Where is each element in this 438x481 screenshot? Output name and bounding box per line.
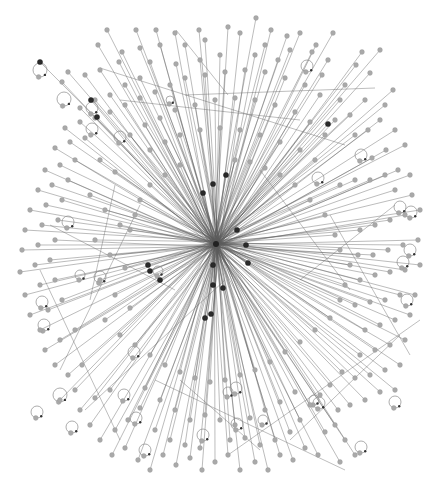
graph-node[interactable]: [178, 163, 183, 168]
graph-node[interactable]: [183, 76, 188, 81]
graph-node[interactable]: [238, 31, 243, 36]
graph-node[interactable]: [110, 453, 115, 458]
graph-node[interactable]: [46, 308, 51, 313]
graph-node[interactable]: [298, 148, 303, 153]
graph-node[interactable]: [143, 386, 148, 391]
graph-node[interactable]: [167, 102, 172, 107]
graph-node[interactable]: [56, 218, 61, 223]
graph-node[interactable]: [358, 353, 363, 358]
graph-node[interactable]: [263, 43, 268, 48]
graph-node[interactable]: [218, 53, 223, 58]
graph-node[interactable]: [233, 423, 238, 428]
graph-node-highlighted[interactable]: [37, 59, 42, 64]
graph-node[interactable]: [148, 60, 153, 65]
graph-node[interactable]: [293, 183, 298, 188]
graph-node[interactable]: [18, 270, 23, 275]
graph-node[interactable]: [378, 118, 383, 123]
graph-node[interactable]: [116, 141, 121, 146]
graph-node[interactable]: [123, 83, 128, 88]
graph-node[interactable]: [78, 408, 83, 413]
graph-node[interactable]: [33, 263, 38, 268]
graph-node-highlighted[interactable]: [145, 262, 150, 267]
graph-node[interactable]: [288, 48, 293, 53]
graph-node[interactable]: [363, 98, 368, 103]
graph-node-highlighted[interactable]: [147, 268, 152, 273]
graph-node[interactable]: [353, 303, 358, 308]
graph-node[interactable]: [408, 313, 413, 318]
graph-node[interactable]: [416, 238, 421, 243]
graph-node[interactable]: [128, 228, 133, 233]
graph-node[interactable]: [199, 439, 204, 444]
graph-node[interactable]: [353, 376, 358, 381]
graph-node-highlighted[interactable]: [223, 172, 228, 177]
graph-node[interactable]: [53, 363, 58, 368]
graph-node[interactable]: [333, 423, 338, 428]
graph-node[interactable]: [253, 98, 258, 103]
graph-node[interactable]: [226, 25, 231, 30]
graph-node-highlighted[interactable]: [157, 277, 162, 282]
graph-node[interactable]: [343, 438, 348, 443]
graph-node[interactable]: [348, 263, 353, 268]
graph-node[interactable]: [138, 76, 143, 81]
graph-node[interactable]: [393, 128, 398, 133]
graph-node[interactable]: [78, 120, 83, 125]
graph-node[interactable]: [393, 388, 398, 393]
graph-node[interactable]: [58, 398, 63, 403]
graph-node[interactable]: [40, 223, 45, 228]
graph-node[interactable]: [353, 133, 358, 138]
graph-node[interactable]: [58, 338, 63, 343]
graph-node[interactable]: [117, 60, 122, 65]
graph-node[interactable]: [20, 248, 25, 253]
graph-node[interactable]: [148, 353, 153, 358]
graph-node[interactable]: [141, 454, 146, 459]
graph-node[interactable]: [353, 453, 358, 458]
graph-node[interactable]: [233, 158, 238, 163]
graph-node[interactable]: [328, 383, 333, 388]
graph-node-highlighted[interactable]: [94, 114, 99, 119]
graph-node[interactable]: [98, 278, 103, 283]
graph-node[interactable]: [98, 438, 103, 443]
graph-node[interactable]: [323, 430, 328, 435]
graph-node[interactable]: [88, 193, 93, 198]
graph-node[interactable]: [338, 248, 343, 253]
graph-node[interactable]: [203, 413, 208, 418]
graph-node[interactable]: [357, 159, 362, 164]
graph-node[interactable]: [266, 468, 271, 473]
graph-node[interactable]: [33, 416, 38, 421]
graph-node-highlighted[interactable]: [210, 282, 215, 287]
graph-node[interactable]: [98, 68, 103, 73]
graph-node[interactable]: [158, 116, 163, 121]
graph-node[interactable]: [310, 50, 315, 55]
graph-node[interactable]: [314, 43, 319, 48]
graph-node[interactable]: [393, 318, 398, 323]
graph-node[interactable]: [338, 298, 343, 303]
graph-node[interactable]: [308, 198, 313, 203]
graph-node[interactable]: [53, 278, 58, 283]
graph-node[interactable]: [78, 106, 83, 111]
graph-node[interactable]: [308, 120, 313, 125]
graph-node[interactable]: [73, 328, 78, 333]
graph-node[interactable]: [218, 418, 223, 423]
graph-node-highlighted[interactable]: [220, 285, 225, 290]
graph-node[interactable]: [53, 146, 58, 151]
graph-node[interactable]: [183, 43, 188, 48]
graph-node[interactable]: [118, 223, 123, 228]
graph-node[interactable]: [315, 407, 320, 412]
graph-node[interactable]: [278, 140, 283, 145]
graph-node[interactable]: [388, 270, 393, 275]
graph-node-highlighted[interactable]: [245, 260, 250, 265]
graph-node[interactable]: [285, 34, 290, 39]
graph-node[interactable]: [232, 392, 237, 397]
graph-node[interactable]: [173, 108, 178, 113]
graph-node[interactable]: [103, 318, 108, 323]
graph-node[interactable]: [173, 408, 178, 413]
graph-node[interactable]: [108, 110, 113, 115]
graph-node[interactable]: [353, 178, 358, 183]
graph-node[interactable]: [283, 76, 288, 81]
graph-node[interactable]: [388, 343, 393, 348]
graph-node[interactable]: [388, 218, 393, 223]
graph-node[interactable]: [83, 136, 88, 141]
graph-node[interactable]: [38, 328, 43, 333]
graph-node[interactable]: [323, 133, 328, 138]
graph-node[interactable]: [358, 278, 363, 283]
